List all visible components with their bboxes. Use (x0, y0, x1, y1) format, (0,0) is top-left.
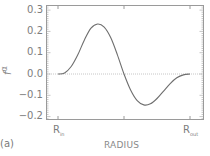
y-tick-label: 0.0 (13, 69, 43, 79)
y-axis-ticks (47, 6, 204, 119)
y-tick-label: 0.2 (13, 26, 43, 36)
y-tick-label: −0.2 (13, 111, 43, 121)
y-axis-label: fα (0, 66, 13, 75)
y-tick-label: 0.1 (13, 47, 43, 57)
x-tick-label-rin: Rin (53, 124, 65, 137)
data-line (58, 24, 190, 105)
x-axis-label: RADIUS (104, 140, 139, 150)
x-tick-label-rout: Rout (183, 124, 198, 137)
y-tick-label: 0.3 (13, 5, 43, 15)
panel-label: (a) (0, 138, 14, 149)
y-tick-label: −0.1 (13, 90, 43, 100)
plot-frame (47, 6, 204, 120)
